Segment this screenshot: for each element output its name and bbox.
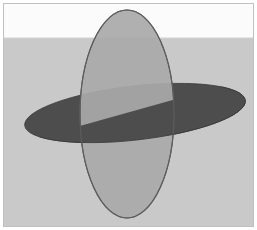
diagram-canvas bbox=[0, 0, 257, 230]
ellipse-diagram bbox=[0, 0, 257, 230]
